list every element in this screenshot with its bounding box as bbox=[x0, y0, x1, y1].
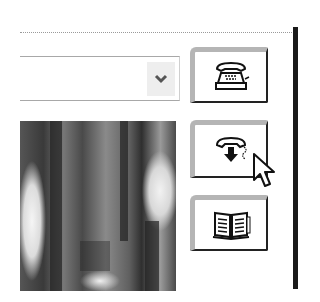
grayscale-photo bbox=[20, 121, 176, 291]
dropdown-toggle-button[interactable] bbox=[147, 62, 175, 96]
telephone-icon bbox=[211, 61, 251, 93]
phonebook-button[interactable] bbox=[190, 195, 268, 251]
mouse-cursor-icon bbox=[252, 152, 278, 190]
phone-button[interactable] bbox=[190, 47, 268, 103]
chevron-down-icon bbox=[154, 74, 168, 84]
telephone-down-arrow-icon bbox=[211, 135, 251, 167]
selection-dropdown[interactable] bbox=[20, 56, 180, 101]
open-book-icon bbox=[211, 209, 251, 241]
window-edge-bar bbox=[293, 27, 298, 289]
separator-line bbox=[20, 32, 292, 33]
